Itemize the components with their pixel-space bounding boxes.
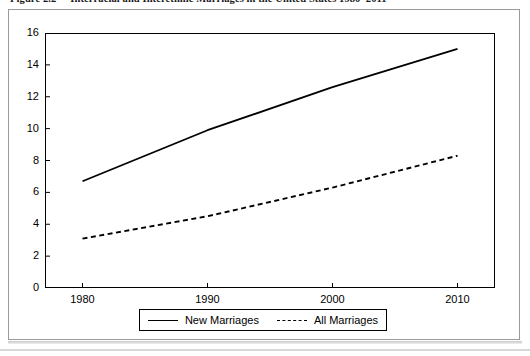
x-axis-tick-label: 2000 — [310, 293, 356, 305]
y-axis-tick-label: 16 — [11, 26, 39, 38]
figure-number: Figure 2.2 — [10, 0, 56, 4]
dashed-line-icon — [277, 316, 307, 325]
series-line — [83, 156, 458, 239]
chart-legend: New Marriages All Marriages — [139, 309, 387, 331]
y-axis-tick-label: 14 — [11, 58, 39, 70]
figure-shadow — [8, 341, 522, 344]
y-axis-tick-label: 12 — [11, 90, 39, 102]
legend-label-all-marriages: All Marriages — [314, 314, 378, 326]
x-axis-tick-label: 1990 — [185, 293, 231, 305]
figure-caption: Figure 2.2Interracial and Interethnic Ma… — [10, 0, 520, 7]
legend-entry-all-marriages: All Marriages — [277, 314, 378, 326]
x-axis-tick-label: 2010 — [435, 293, 481, 305]
legend-entry-new-marriages: New Marriages — [148, 314, 259, 326]
solid-line-icon — [148, 316, 178, 325]
line-chart — [45, 33, 495, 288]
legend-label-new-marriages: New Marriages — [185, 314, 259, 326]
figure-title: Interracial and Interethnic Marriages in… — [70, 0, 386, 4]
y-axis-tick-label: 6 — [11, 185, 39, 197]
y-axis-tick-label: 2 — [11, 249, 39, 261]
y-axis-tick-label: 4 — [11, 217, 39, 229]
x-axis-tick-label: 1980 — [60, 293, 106, 305]
y-axis-tick-label: 8 — [11, 154, 39, 166]
y-axis-tick-label: 0 — [11, 281, 39, 293]
series-line — [83, 49, 458, 181]
page-bottom-rule — [0, 349, 530, 351]
y-axis-tick-label: 10 — [11, 122, 39, 134]
